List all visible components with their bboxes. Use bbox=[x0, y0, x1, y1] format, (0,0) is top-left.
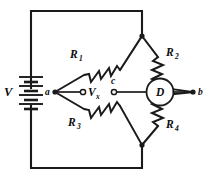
circuit-canvas: V R 1 R 2 R 3 bbox=[0, 0, 215, 181]
r3-label: R bbox=[67, 116, 76, 128]
detector-label: D bbox=[155, 86, 165, 98]
r2-subscript: 2 bbox=[174, 52, 179, 61]
bridge-voltage-label: V x bbox=[88, 86, 100, 101]
junction-dot-b bbox=[190, 89, 195, 94]
r1-label: R bbox=[69, 48, 78, 60]
terminal-vx bbox=[80, 89, 85, 94]
terminal-c bbox=[111, 89, 116, 94]
resistor-label-r1: R 1 bbox=[69, 48, 83, 63]
resistor-label-r3: R 3 bbox=[67, 116, 81, 131]
resistor-label-r4: R 4 bbox=[165, 118, 179, 133]
wire-top-left bbox=[31, 11, 142, 88]
r4-subscript: 4 bbox=[174, 124, 179, 133]
r1-subscript: 1 bbox=[79, 54, 83, 63]
r4-label: R bbox=[165, 118, 174, 130]
circuit-diagram: V R 1 R 2 R 3 bbox=[0, 0, 215, 181]
source-label: V bbox=[4, 85, 14, 99]
r2-label: R bbox=[165, 46, 174, 58]
node-label-a: a bbox=[45, 87, 50, 97]
node-label-c: c bbox=[111, 76, 116, 86]
resistor-label-r2: R 2 bbox=[165, 46, 179, 61]
junction-dot-top bbox=[139, 33, 144, 38]
bridge-arm-r1 bbox=[55, 36, 142, 92]
battery-symbol bbox=[19, 77, 43, 109]
junction-dot-bottom bbox=[139, 142, 144, 147]
junction-dot-a bbox=[52, 89, 57, 94]
detector-branch bbox=[57, 79, 192, 106]
vx-subscript: x bbox=[95, 92, 100, 101]
r3-subscript: 3 bbox=[76, 122, 81, 131]
node-label-b: b bbox=[198, 87, 203, 97]
